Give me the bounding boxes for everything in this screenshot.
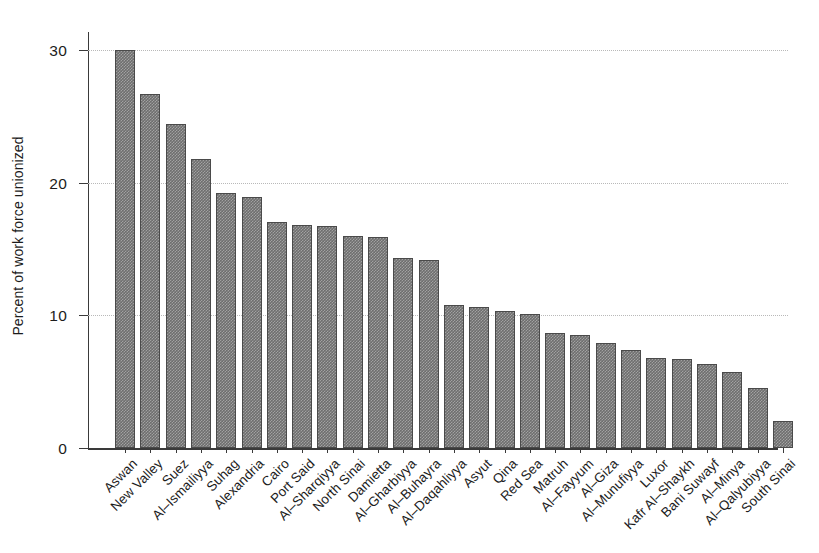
bar [773, 421, 793, 448]
x-tick [353, 448, 354, 453]
y-tick-20: 20 [79, 183, 88, 184]
x-tick [125, 448, 126, 453]
bar [393, 258, 413, 448]
x-tick [252, 448, 253, 453]
x-tick [150, 448, 151, 453]
bar-chart: Percent of work force unionized 0102030 … [0, 0, 819, 553]
x-tick [758, 448, 759, 453]
bar [317, 226, 337, 448]
y-tick-30: 30 [79, 50, 88, 51]
x-tick [783, 448, 784, 453]
x-tick [378, 448, 379, 453]
plot-area: 0102030 [88, 30, 788, 448]
x-tick [631, 448, 632, 453]
x-tick [580, 448, 581, 453]
x-tick [403, 448, 404, 453]
x-tick [555, 448, 556, 453]
x-tick [505, 448, 506, 453]
bar [697, 364, 717, 448]
gridline-30 [88, 50, 788, 51]
bar [520, 314, 540, 448]
x-tick [454, 448, 455, 453]
x-tick [479, 448, 480, 453]
x-tick [327, 448, 328, 453]
bar [570, 335, 590, 448]
bar [140, 94, 160, 448]
bar [216, 193, 236, 448]
bar [748, 388, 768, 448]
bar [419, 260, 439, 448]
bar [292, 225, 312, 448]
x-tick [606, 448, 607, 453]
y-tick-0: 0 [79, 448, 88, 449]
y-axis-title: Percent of work force unionized [10, 136, 26, 335]
y-tick-label: 20 [49, 175, 67, 193]
x-tick [201, 448, 202, 453]
bar [267, 222, 287, 448]
bar [444, 305, 464, 448]
bar [646, 358, 666, 448]
x-tick [226, 448, 227, 453]
x-tick [530, 448, 531, 453]
bar [166, 124, 186, 448]
x-tick [302, 448, 303, 453]
bar [191, 159, 211, 448]
x-tick [277, 448, 278, 453]
bar [621, 350, 641, 448]
y-tick-label: 30 [49, 42, 67, 60]
bar [722, 372, 742, 448]
x-tick [732, 448, 733, 453]
x-tick [682, 448, 683, 453]
x-tick [656, 448, 657, 453]
x-tick [429, 448, 430, 453]
bar [596, 343, 616, 448]
x-axis-label: Asyut [460, 456, 495, 491]
y-tick-label: 0 [58, 440, 67, 458]
y-tick-label: 10 [49, 307, 67, 325]
bar [115, 50, 135, 448]
x-tick [707, 448, 708, 453]
bar [343, 236, 363, 448]
bar [672, 359, 692, 448]
y-tick-10: 10 [79, 315, 88, 316]
x-tick [176, 448, 177, 453]
bar [368, 237, 388, 448]
bar [545, 333, 565, 448]
bar [242, 197, 262, 448]
bar [469, 307, 489, 448]
bar [495, 311, 515, 448]
x-axis-line [88, 448, 778, 450]
